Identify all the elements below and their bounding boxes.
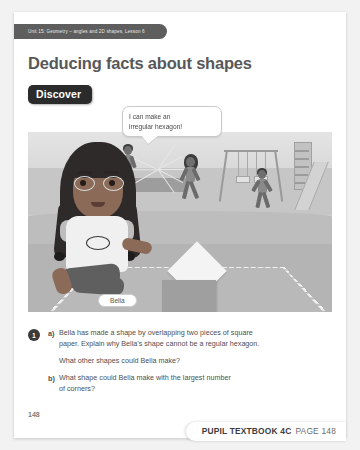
footer-book-title: PUPIL TEXTBOOK 4C [202,426,292,436]
questions-block: 1 a) Bella has made a shape by overlappi… [28,328,334,400]
speech-bubble-line-2: irregular hexagon! [129,122,215,132]
speech-bubble: I can make an irregular hexagon! [122,106,222,137]
question-part-b: b) What shape could Bella make with the … [48,373,334,395]
page-title: Deducing facts about shapes [28,54,252,73]
question-number-badge: 1 [28,329,40,341]
section-badge-discover: Discover [28,85,92,104]
unit-banner-text: Unit 15: Geometry – angles and 2D shapes… [28,29,145,34]
background-child-3 [254,168,272,214]
question-part-a-line-2: paper. Explain why Bella's shape cannot … [59,339,334,350]
speech-bubble-line-1: I can make an [129,112,215,122]
glasses-icon [74,176,122,189]
shirt-logo-icon [86,236,110,250]
slide-icon [276,142,326,208]
background-child-2 [182,154,202,204]
question-part-b-line-1: What shape could Bella make with the lar… [59,373,334,384]
footer-badge: PUPIL TEXTBOOK 4C PAGE 148 [186,422,346,441]
question-part-b-line-2: of corners? [59,384,334,395]
speech-bubble-tail [141,135,159,144]
question-part-a-line-1: Bella has made a shape by overlapping tw… [59,328,334,339]
character-bella [46,140,150,312]
unit-banner: Unit 15: Geometry – angles and 2D shapes… [14,24,167,39]
question-part-a-followup: What other shapes could Bella make? [59,356,334,367]
folio-page-number: 148 [28,411,40,418]
question-part-a-letter: a) [48,328,59,339]
character-name-label: Bella [98,294,137,307]
page-background: Unit 15: Geometry – angles and 2D shapes… [0,0,360,450]
question-part-a: a) Bella has made a shape by overlapping… [48,328,334,350]
textbook-page-sheet: Unit 15: Geometry – angles and 2D shapes… [14,12,346,438]
lesson-illustration [28,132,332,312]
paper-shape-square [162,280,216,312]
question-part-b-letter: b) [48,373,59,384]
question-1: 1 a) Bella has made a shape by overlappi… [28,328,334,400]
footer-page-number: PAGE 148 [295,426,336,436]
